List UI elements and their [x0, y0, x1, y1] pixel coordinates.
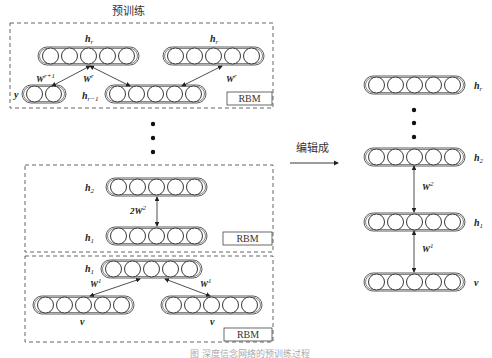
label-w1-right: W1 — [200, 277, 212, 289]
label-right-hr: hr — [474, 80, 483, 93]
neuron-unit — [369, 149, 385, 165]
ellipsis-dot — [151, 150, 155, 154]
neuron-unit — [111, 179, 127, 195]
layer-h1-middle — [106, 227, 207, 245]
neuron-unit — [182, 261, 198, 277]
label-hr-left: hr — [85, 33, 94, 46]
neuron-unit — [144, 261, 160, 277]
neuron-unit — [242, 297, 258, 313]
label-right-w1: W1 — [422, 242, 434, 254]
neuron-unit — [187, 48, 203, 64]
layer-right-hr — [364, 76, 465, 94]
neuron-unit — [106, 261, 122, 277]
label-v-right: v — [210, 316, 215, 327]
neuron-unit — [388, 274, 404, 290]
neuron-unit — [62, 48, 78, 64]
label-hr-minus-1: hr−1 — [82, 90, 99, 103]
layer-h2-middle — [106, 178, 207, 196]
rbm-tag-middle: RBM — [223, 232, 272, 245]
neuron-unit — [407, 274, 423, 290]
neuron-unit — [148, 86, 164, 102]
neuron-unit — [76, 297, 92, 313]
neuron-unit — [168, 48, 184, 64]
rbm-tag-bottom: RBM — [224, 328, 272, 341]
neuron-unit — [445, 77, 461, 93]
label-right-h1: h1 — [474, 217, 483, 230]
label-y: y — [13, 89, 19, 100]
neuron-unit — [388, 214, 404, 230]
neuron-unit — [369, 214, 385, 230]
neuron-unit — [407, 77, 423, 93]
ellipsis-dot — [412, 108, 416, 112]
neuron-unit — [445, 149, 461, 165]
label-w1-left: W1 — [90, 277, 102, 289]
neuron-unit — [110, 86, 126, 102]
label-2w2: 2W2 — [129, 204, 147, 216]
neuron-unit — [149, 179, 165, 195]
neuron-unit — [426, 274, 442, 290]
neuron-unit — [95, 297, 111, 313]
neuron-unit — [111, 228, 127, 244]
neuron-unit — [27, 86, 43, 102]
neuron-unit — [43, 48, 59, 64]
layer-hr-top-right — [163, 47, 264, 65]
label-v-left: v — [80, 316, 85, 327]
neuron-unit — [369, 274, 385, 290]
svg-text:RBM: RBM — [236, 233, 258, 244]
label-h2: h2 — [85, 182, 95, 195]
svg-text:RBM: RBM — [238, 93, 260, 104]
neuron-unit — [445, 214, 461, 230]
neuron-unit — [168, 228, 184, 244]
neuron-unit — [125, 261, 141, 277]
neuron-unit — [426, 149, 442, 165]
layer-right-h2 — [364, 148, 465, 166]
label-right-h2: h2 — [474, 152, 484, 165]
neuron-unit — [369, 77, 385, 93]
neuron-unit — [407, 149, 423, 165]
neuron-unit — [130, 179, 146, 195]
neuron-unit — [407, 214, 423, 230]
layer-v-bottom-left — [33, 296, 134, 314]
figure-caption: 图 深度信念网络的预训练过程 — [190, 348, 310, 358]
label-w-r-right: Wr — [226, 72, 237, 84]
neuron-unit — [129, 86, 145, 102]
layer-h1-bottom — [101, 260, 202, 278]
neuron-unit — [185, 297, 201, 313]
dbn-pretraining-diagram: 预训练 RBM RBM RBM hr hr y hr−1 Wr+1 Wr Wr … — [0, 0, 492, 358]
ellipsis-dot — [151, 136, 155, 140]
rbm-tag-top: RBM — [227, 92, 272, 105]
neuron-unit — [130, 228, 146, 244]
layer-hr-top-left — [38, 47, 139, 65]
neuron-unit — [187, 179, 203, 195]
neuron-unit — [244, 48, 260, 64]
neuron-unit — [149, 228, 165, 244]
edge-hr-hr1-left — [90, 66, 130, 86]
layer-right-h1 — [364, 213, 465, 231]
ellipsis-dot — [412, 135, 416, 139]
label-w-r-plus-1: Wr+1 — [36, 72, 55, 84]
layer-v-bottom-right — [161, 296, 262, 314]
neuron-unit — [167, 86, 183, 102]
neuron-unit — [163, 261, 179, 277]
edge-hr-hr1-right — [182, 66, 222, 86]
pretrain-title: 预训练 — [112, 4, 145, 18]
neuron-unit — [426, 77, 442, 93]
label-w-r-left: Wr — [83, 72, 94, 84]
layer-hr-minus-1 — [105, 85, 206, 103]
neuron-unit — [388, 149, 404, 165]
neuron-unit — [206, 48, 222, 64]
neuron-unit — [187, 228, 203, 244]
neuron-unit — [81, 48, 97, 64]
neuron-unit — [38, 297, 54, 313]
neuron-unit — [168, 179, 184, 195]
ellipsis-dot — [412, 121, 416, 125]
neuron-unit — [119, 48, 135, 64]
neuron-unit — [445, 274, 461, 290]
neuron-unit — [186, 86, 202, 102]
neuron-unit — [204, 297, 220, 313]
label-hr-right: hr — [210, 33, 219, 46]
neuron-unit — [388, 77, 404, 93]
neuron-unit — [114, 297, 130, 313]
neuron-unit — [100, 48, 116, 64]
neuron-unit — [426, 214, 442, 230]
